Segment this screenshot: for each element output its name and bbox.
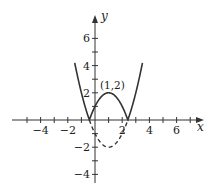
y-tick-label: 6 xyxy=(83,32,90,45)
plot-area: −4−2246642−2−4 x y (1,2) xyxy=(0,0,214,192)
x-tick-label: 4 xyxy=(146,124,153,137)
y-axis-arrow-icon xyxy=(92,15,98,23)
y-axis-label: y xyxy=(100,9,108,23)
ticks: −4−2246642−2−4 xyxy=(27,32,190,181)
y-tick-label: −2 xyxy=(74,141,90,154)
x-tick-label: 2 xyxy=(119,124,126,137)
x-tick-label: 6 xyxy=(173,124,180,137)
function-graph: −4−2246642−2−4 x y (1,2) xyxy=(0,0,214,192)
labels: x y (1,2) xyxy=(100,9,204,134)
x-axis-label: x xyxy=(197,120,204,134)
curves xyxy=(75,63,143,147)
x-tick-label: −2 xyxy=(60,124,76,137)
y-tick-label: −4 xyxy=(74,168,90,181)
y-tick-label: 4 xyxy=(83,60,90,73)
y-tick-label: 2 xyxy=(83,87,90,100)
x-tick-label: −4 xyxy=(32,124,48,137)
axes xyxy=(12,15,204,183)
vertex-annotation: (1,2) xyxy=(100,79,125,91)
